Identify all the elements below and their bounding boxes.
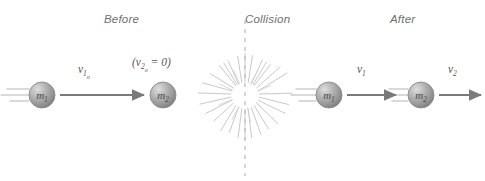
after-m1-sub: 1	[331, 95, 335, 104]
diagram-vector-layer: m1 m2 m1 m2	[0, 0, 485, 181]
motion-trails-after-m1	[291, 89, 316, 101]
mass-sphere-after-m2: m2	[408, 82, 434, 108]
mass-sphere-after-m1: m1	[316, 82, 342, 108]
after-m1-label: m	[323, 89, 331, 101]
before-m1-sub: 1	[44, 95, 48, 104]
mass-sphere-before-m2: m2	[150, 82, 176, 108]
motion-trails-before-m1	[1, 89, 29, 101]
mass-sphere-before-m1: m1	[29, 82, 55, 108]
before-m1-label: m	[36, 89, 44, 101]
collision-diagram: Before Collision After v1o (v2o = 0) v1 …	[0, 0, 485, 181]
after-m2-sub: 2	[423, 95, 427, 104]
before-m2-label: m	[157, 89, 165, 101]
before-m2-sub: 2	[165, 95, 169, 104]
after-m2-label: m	[415, 89, 423, 101]
